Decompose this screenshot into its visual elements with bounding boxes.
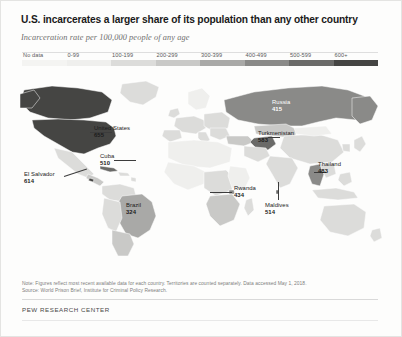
callout-united-states: United States 655	[94, 125, 130, 139]
country-scandinavia	[188, 88, 210, 110]
legend-swatch	[334, 60, 379, 66]
legend-swatch	[200, 60, 245, 66]
legend-swatch-cell	[22, 60, 67, 66]
legend-swatch	[67, 60, 112, 66]
infographic-page: U.S. incarcerates a larger share of its …	[0, 0, 402, 337]
legend-swatch-cell	[245, 60, 290, 66]
callout-maldives: Maldives 514	[265, 202, 289, 216]
legend-item-200-299: 200-299	[156, 52, 201, 60]
legend-labels-row: No data 0-99 100-199 200-299 300-399 400…	[22, 52, 378, 60]
callout-value: 614	[24, 178, 55, 185]
callout-thailand: Thailand 483	[318, 161, 341, 175]
callout-rwanda: Rwanda 434	[234, 185, 256, 199]
legend-swatches-row	[22, 60, 378, 66]
callout-brazil: Brazil 324	[126, 202, 141, 216]
callout-country-name: Russia	[272, 99, 290, 106]
legend-item-0-99: 0-99	[67, 52, 112, 60]
callout-value: 415	[272, 106, 290, 113]
brand-wordmark: PEW RESEARCH CENTER	[22, 306, 110, 313]
legend: No data 0-99 100-199 200-299 300-399 400…	[22, 52, 378, 74]
legend-swatch-cell	[67, 60, 112, 66]
country-russia	[224, 86, 374, 126]
country-caribbean-isles	[131, 177, 136, 182]
legend-swatch	[289, 60, 334, 66]
legend-swatch-cell	[289, 60, 334, 66]
callout-value: 655	[94, 132, 130, 139]
legend-swatch	[245, 60, 290, 66]
country-iran	[244, 146, 270, 162]
country-turkey	[226, 136, 254, 146]
legend-swatch-cell	[200, 60, 245, 66]
callout-country-name: Brazil	[126, 202, 141, 209]
callout-country-name: Thailand	[318, 161, 341, 168]
world-choropleth-map: United States 655 Cuba 510 El Salvador 6…	[18, 78, 384, 258]
leader-line-rwanda	[210, 192, 232, 193]
callout-country-name: Turkmenistan	[258, 130, 294, 137]
footnote-note: Note: Figures reflect most recent availa…	[22, 280, 380, 287]
callout-cuba: Cuba 510	[100, 153, 114, 167]
country-new-zealand	[370, 228, 382, 242]
callout-country-name: Maldives	[265, 202, 289, 209]
legend-swatch	[111, 60, 156, 66]
country-korea	[342, 144, 350, 152]
country-australia	[320, 204, 366, 236]
legend-swatch	[22, 60, 67, 66]
country-india	[266, 156, 298, 188]
country-iberia	[162, 130, 182, 142]
legend-swatch-cell	[334, 60, 379, 66]
callout-russia: Russia 415	[272, 99, 290, 113]
callout-turkmenistan: Turkmenistan 583	[258, 130, 294, 144]
chart-subtitle: Incarceration rate per 100,000 people of…	[21, 33, 386, 42]
legend-label: 0-99	[67, 52, 112, 60]
legend-label: 200-299	[156, 52, 201, 60]
legend-item-100-199: 100-199	[111, 52, 156, 60]
callout-value: 434	[234, 192, 256, 199]
legend-swatch	[156, 60, 201, 66]
leader-line-maldives	[278, 182, 279, 200]
country-greenland	[120, 81, 159, 105]
legend-swatch-cell	[156, 60, 201, 66]
country-japan	[354, 136, 366, 152]
callout-country-name: El Salvador	[24, 171, 55, 178]
legend-label: No data	[22, 52, 67, 60]
footnotes: Note: Figures reflect most recent availa…	[22, 280, 380, 295]
callout-el-salvador: El Salvador 614	[24, 171, 55, 185]
country-peru-bolivia	[102, 198, 122, 232]
legend-label: 600+	[334, 52, 379, 60]
legend-label: 300-399	[200, 52, 245, 60]
legend-item-300-399: 300-399	[200, 52, 245, 60]
legend-item-no-data: No data	[22, 52, 67, 60]
callout-value: 514	[265, 209, 289, 216]
country-indonesia	[312, 188, 358, 200]
country-russia-far-east	[352, 96, 378, 124]
legend-item-400-499: 400-499	[245, 52, 290, 60]
callout-value: 483	[318, 168, 341, 175]
legend-label: 500-599	[289, 52, 334, 60]
callout-country-name: Cuba	[100, 153, 114, 160]
footer-divider	[22, 299, 378, 300]
legend-item-500-599: 500-599	[289, 52, 334, 60]
page-title: U.S. incarcerates a larger share of its …	[21, 14, 386, 26]
legend-label: 400-499	[245, 52, 290, 60]
legend-swatch-cell	[111, 60, 156, 66]
callout-country-name: Rwanda	[234, 185, 256, 192]
callout-country-name: United States	[94, 125, 130, 132]
country-hispaniola	[118, 172, 130, 176]
callout-value: 510	[100, 160, 114, 167]
bottom-divider	[22, 320, 378, 321]
legend-label: 100-199	[111, 52, 156, 60]
country-british-isles	[168, 108, 180, 118]
leader-line-cuba	[114, 160, 136, 161]
footnote-source: Source: World Prison Brief, Institute fo…	[22, 287, 380, 294]
legend-top-rule	[22, 52, 378, 53]
callout-value: 583	[258, 137, 294, 144]
legend-item-600-plus: 600+	[334, 52, 379, 60]
country-mongolia	[294, 126, 332, 136]
callout-value: 324	[126, 209, 141, 216]
country-madagascar	[244, 198, 254, 216]
